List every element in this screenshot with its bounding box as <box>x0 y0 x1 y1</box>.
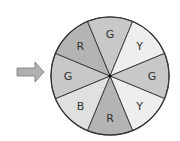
spinner-center-dot <box>108 74 111 77</box>
sector-label-right: G <box>148 70 157 83</box>
sector-label-top: G <box>106 28 115 41</box>
sector-label-upper-right: Y <box>135 40 143 53</box>
sector-label-lower-right: Y <box>135 100 143 113</box>
arrow-right-icon <box>17 62 44 82</box>
sector-label-upper-left: R <box>77 40 85 53</box>
pointer-arrow <box>17 62 44 82</box>
sector-label-lower-left: B <box>77 100 85 113</box>
sector-label-bottom: R <box>106 112 114 125</box>
spinner-diagram: GYGYRBGR <box>0 0 180 141</box>
sector-label-left: G <box>64 70 73 83</box>
